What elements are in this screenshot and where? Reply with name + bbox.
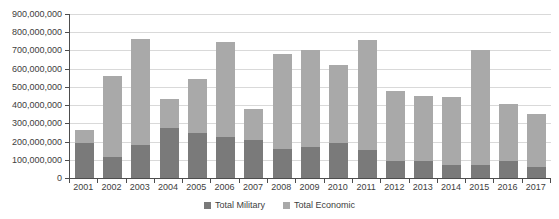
bar-2011-total-economic bbox=[358, 40, 377, 150]
legend-label-total-economic: Total Economic bbox=[294, 200, 355, 211]
bar-2011-total-military bbox=[358, 150, 377, 178]
x-axis-tick bbox=[126, 179, 127, 183]
x-axis-label-2016: 2016 bbox=[493, 182, 523, 192]
bar-2001 bbox=[75, 14, 94, 178]
x-axis-label-2010: 2010 bbox=[323, 182, 353, 192]
y-axis-tick bbox=[65, 14, 69, 15]
bar-2014-total-military bbox=[442, 165, 461, 178]
x-axis-label-2009: 2009 bbox=[295, 182, 325, 192]
x-axis-label-2008: 2008 bbox=[266, 182, 296, 192]
plot-area bbox=[69, 14, 551, 179]
total-military-swatch-icon bbox=[204, 202, 211, 209]
bar-2007-total-military bbox=[244, 140, 263, 178]
bar-2003-total-military bbox=[131, 145, 150, 178]
y-axis-tick bbox=[65, 142, 69, 143]
x-axis-tick bbox=[437, 179, 438, 183]
y-axis-tick-label: 500,000,000 bbox=[0, 82, 62, 92]
x-axis-tick bbox=[182, 179, 183, 183]
bar-2015 bbox=[471, 14, 490, 178]
total-economic-swatch-icon bbox=[283, 202, 290, 209]
bar-2006-total-economic bbox=[216, 42, 235, 137]
x-axis-tick bbox=[97, 179, 98, 183]
x-axis-tick bbox=[352, 179, 353, 183]
bar-2003 bbox=[131, 14, 150, 178]
bar-2010-total-economic bbox=[329, 65, 348, 143]
y-axis-tick-label: 400,000,000 bbox=[0, 100, 62, 110]
bar-2015-total-military bbox=[471, 165, 490, 178]
bar-2008 bbox=[273, 14, 292, 178]
bar-2014-total-economic bbox=[442, 97, 461, 165]
bar-2007 bbox=[244, 14, 263, 178]
legend-item-total-military: Total Military bbox=[204, 200, 265, 211]
x-axis-label-2002: 2002 bbox=[96, 182, 126, 192]
x-axis-label-2012: 2012 bbox=[379, 182, 409, 192]
bar-2015-total-economic bbox=[471, 50, 490, 165]
x-axis-label-2015: 2015 bbox=[464, 182, 494, 192]
bar-2012-total-economic bbox=[386, 91, 405, 161]
y-axis-tick bbox=[65, 105, 69, 106]
bar-2017 bbox=[527, 14, 546, 178]
y-axis-tick bbox=[65, 69, 69, 70]
x-axis-tick bbox=[210, 179, 211, 183]
bar-2002-total-economic bbox=[103, 76, 122, 157]
x-axis-label-2011: 2011 bbox=[351, 182, 381, 192]
bar-2017-total-military bbox=[527, 167, 546, 178]
y-axis-tick-label: 300,000,000 bbox=[0, 118, 62, 128]
y-axis-tick-label: 900,000,000 bbox=[0, 9, 62, 19]
x-axis-tick bbox=[295, 179, 296, 183]
bar-2011 bbox=[358, 14, 377, 178]
bar-2004-total-economic bbox=[160, 99, 179, 129]
y-axis-tick-label: 0 bbox=[0, 173, 62, 183]
bar-2005 bbox=[188, 14, 207, 178]
bar-2009 bbox=[301, 14, 320, 178]
bar-2017-total-economic bbox=[527, 114, 546, 167]
bar-2002 bbox=[103, 14, 122, 178]
bar-2009-total-military bbox=[301, 147, 320, 178]
bar-2003-total-economic bbox=[131, 39, 150, 145]
bar-2008-total-economic bbox=[273, 54, 292, 148]
bar-2013-total-economic bbox=[414, 96, 433, 162]
y-axis-tick bbox=[65, 123, 69, 124]
x-axis-tick bbox=[239, 179, 240, 183]
y-axis-tick bbox=[65, 160, 69, 161]
x-axis-tick bbox=[465, 179, 466, 183]
y-axis-tick bbox=[65, 32, 69, 33]
x-axis-tick bbox=[267, 179, 268, 183]
bar-2006 bbox=[216, 14, 235, 178]
bar-2014 bbox=[442, 14, 461, 178]
x-axis-tick bbox=[324, 179, 325, 183]
y-axis-tick bbox=[65, 50, 69, 51]
y-axis-tick-label: 100,000,000 bbox=[0, 155, 62, 165]
bar-2005-total-economic bbox=[188, 79, 207, 132]
bar-2001-total-economic bbox=[75, 130, 94, 144]
bar-2012-total-military bbox=[386, 161, 405, 178]
x-axis-label-2017: 2017 bbox=[521, 182, 551, 192]
x-axis-tick bbox=[69, 179, 70, 183]
y-axis-tick-label: 800,000,000 bbox=[0, 27, 62, 37]
bar-2016-total-economic bbox=[499, 104, 518, 161]
bar-2009-total-economic bbox=[301, 50, 320, 146]
bar-2005-total-military bbox=[188, 133, 207, 178]
y-axis-tick-label: 700,000,000 bbox=[0, 45, 62, 55]
bar-2016 bbox=[499, 14, 518, 178]
legend: Total Military Total Economic bbox=[0, 200, 559, 211]
bar-2016-total-military bbox=[499, 161, 518, 178]
y-axis-tick-label: 600,000,000 bbox=[0, 64, 62, 74]
bar-2010 bbox=[329, 14, 348, 178]
bar-2008-total-military bbox=[273, 149, 292, 178]
x-axis-label-2004: 2004 bbox=[153, 182, 183, 192]
x-axis-tick bbox=[380, 179, 381, 183]
x-axis-tick bbox=[409, 179, 410, 183]
bar-2004 bbox=[160, 14, 179, 178]
bar-2007-total-economic bbox=[244, 109, 263, 140]
x-axis-label-2006: 2006 bbox=[210, 182, 240, 192]
bar-2012 bbox=[386, 14, 405, 178]
y-axis-tick bbox=[65, 87, 69, 88]
x-axis-label-2013: 2013 bbox=[408, 182, 438, 192]
x-axis-tick bbox=[154, 179, 155, 183]
x-axis-tick bbox=[550, 179, 551, 183]
bar-2004-total-military bbox=[160, 128, 179, 178]
bar-2013 bbox=[414, 14, 433, 178]
bar-2002-total-military bbox=[103, 157, 122, 178]
stacked-bar-chart: Total Military Total Economic 0100,000,0… bbox=[0, 0, 559, 219]
